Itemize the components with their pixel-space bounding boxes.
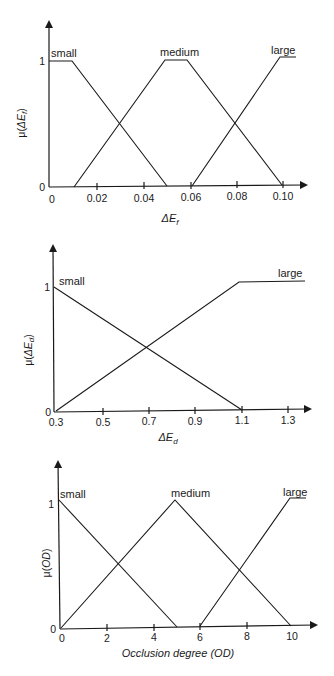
x-tick-label: 1.1 — [235, 414, 250, 426]
x-ticks — [103, 406, 288, 415]
x-tick-label: 2 — [104, 632, 110, 644]
label-large: large — [271, 44, 295, 56]
chart-delta-ef: 1 0 0 0.02 0.04 0.06 0.08 0.10 small med… — [15, 22, 306, 227]
x-tick-label: 0.06 — [181, 191, 202, 203]
x-axis-label: Occlusion degree (OD) — [122, 647, 235, 659]
x-tick-label: 0 — [49, 193, 55, 205]
y-tick-1: 1 — [44, 281, 50, 293]
chart-occlusion-degree: 1 0 0 2 4 6 8 10 small medium large μ(OD… — [40, 462, 316, 659]
figure: 1 0 0 0.02 0.04 0.06 0.08 0.10 small med… — [0, 0, 334, 676]
label-large: large — [283, 486, 307, 498]
x-axis — [54, 409, 310, 412]
x-tick-label: 0.3 — [49, 416, 64, 428]
y-tick-1: 1 — [48, 498, 54, 510]
y-axis — [53, 246, 54, 412]
y-axis-label: μ(ΔEf) — [15, 108, 29, 137]
series-large — [192, 57, 296, 186]
x-tick-label: 0.7 — [142, 415, 157, 427]
x-tick-label: 0.04 — [134, 192, 155, 204]
x-tick-label: 8 — [244, 630, 250, 642]
x-tick-label: 10 — [286, 630, 298, 642]
y-axis-label: μ(OD) — [40, 549, 52, 578]
y-tick-0: 0 — [39, 181, 45, 193]
label-large: large — [278, 267, 302, 279]
x-axis-label: ΔEd — [157, 431, 178, 446]
x-tick-label: 0.5 — [96, 416, 111, 428]
series-small — [49, 61, 167, 186]
label-medium: medium — [160, 46, 199, 58]
x-tick-label: 0.10 — [273, 190, 294, 202]
y-tick-1: 1 — [39, 55, 45, 67]
series-medium — [61, 500, 291, 628]
x-tick-label: 6 — [197, 631, 203, 643]
series-large — [200, 498, 306, 626]
x-axis-label: ΔEf — [161, 212, 180, 227]
y-axis-label: μ(ΔEd) — [22, 334, 36, 366]
label-medium: medium — [171, 487, 210, 499]
chart-delta-ed: 1 0 0.3 0.5 0.7 0.9 1.1 1.3 small large … — [22, 246, 310, 446]
x-axis — [60, 625, 316, 629]
x-axis — [49, 185, 306, 187]
series-small — [54, 287, 242, 410]
label-small: small — [51, 47, 77, 59]
label-small: small — [60, 488, 86, 500]
x-tick-label: 0 — [59, 632, 65, 644]
y-tick-0: 0 — [50, 623, 56, 635]
x-tick-label: 4 — [151, 631, 157, 643]
x-tick-label: 1.3 — [281, 414, 296, 426]
x-tick-label: 0.08 — [227, 190, 248, 202]
x-tick-label: 0.9 — [188, 415, 203, 427]
x-tick-label: 0.02 — [87, 192, 108, 204]
series-large — [56, 281, 305, 411]
series-medium — [74, 60, 282, 187]
label-small: small — [59, 275, 85, 287]
